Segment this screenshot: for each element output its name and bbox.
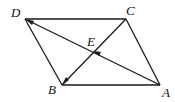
segment-ca <box>126 19 160 85</box>
label-a: A <box>161 85 170 100</box>
parallelogram-diagram: D C E B A <box>0 0 175 102</box>
label-e: E <box>86 34 95 49</box>
label-c: C <box>126 3 135 18</box>
label-d: D <box>10 5 21 20</box>
label-b: B <box>48 82 56 97</box>
segment-db <box>25 19 62 85</box>
diagonal-cb <box>62 19 126 85</box>
diagonal-ad <box>25 19 160 85</box>
